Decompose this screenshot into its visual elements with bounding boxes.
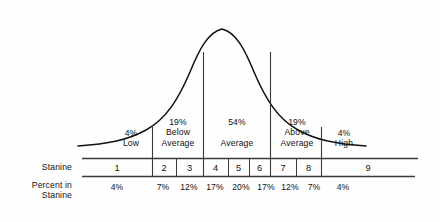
band-above-average-percent: 19%	[273, 117, 321, 127]
band-high-name: High	[323, 138, 365, 148]
stanine-value-2: 2	[152, 160, 176, 176]
band-below-average-name-line1: Below	[154, 127, 202, 137]
stanine-value-6: 6	[249, 160, 270, 176]
stanine-normal-curve-figure: 4% Low 19% Below Average 54% Average 19%…	[0, 0, 440, 222]
band-low-name: Low	[110, 138, 152, 148]
row-label-percent-in-stanine: Percent in Stanine	[0, 180, 72, 201]
band-low-percent: 4%	[110, 128, 152, 138]
row-label-percent-line1: Percent in	[0, 180, 72, 190]
stanine-value-5: 5	[228, 160, 249, 176]
band-below-average-percent: 19%	[154, 117, 202, 127]
band-below-average: 19% Below Average	[154, 117, 202, 148]
band-average-name: Average	[205, 138, 269, 148]
band-below-average-name-line2: Average	[154, 138, 202, 148]
percent-value-2: 7%	[149, 181, 177, 193]
row-label-percent-line2: Stanine	[0, 190, 72, 200]
row-label-stanine: Stanine	[0, 162, 72, 172]
stanine-value-7: 7	[270, 160, 296, 176]
stanine-value-8: 8	[296, 160, 321, 176]
band-above-average-name-line1: Above	[273, 127, 321, 137]
stanine-value-3: 3	[176, 160, 203, 176]
band-average-percent: 54%	[205, 117, 269, 127]
percent-value-1: 4%	[82, 181, 152, 193]
percent-value-8: 7%	[301, 181, 327, 193]
stanine-value-4: 4	[203, 160, 228, 176]
band-above-average: 19% Above Average	[273, 117, 321, 148]
stanine-value-9: 9	[321, 160, 415, 176]
percent-value-9: 4%	[329, 181, 357, 193]
band-high: 4% High	[323, 128, 365, 149]
band-above-average-name-line2: Average	[273, 138, 321, 148]
band-low: 4% Low	[110, 128, 152, 149]
band-average: 54% Average	[205, 117, 269, 148]
band-high-percent: 4%	[323, 128, 365, 138]
stanine-value-1: 1	[82, 160, 152, 176]
band-average-spacer	[205, 127, 269, 137]
